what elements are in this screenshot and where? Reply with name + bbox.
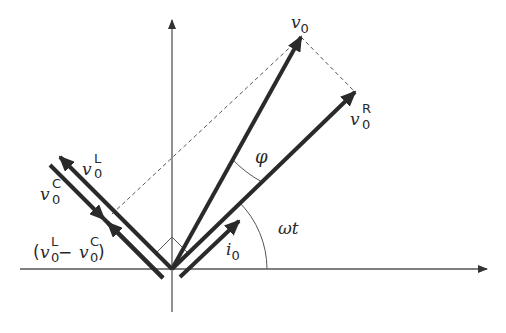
label-diff-open: ( — [33, 242, 40, 262]
label-phi: φ — [255, 146, 268, 167]
label-v0R-sub: 0 — [362, 117, 370, 132]
label-diff-close: ) — [98, 242, 105, 262]
label-i0: i0 — [226, 239, 240, 263]
label-v0R-base: v — [350, 109, 360, 129]
label-v0C-sub: 0 — [52, 192, 60, 207]
omega-t-arc — [239, 202, 267, 269]
label-v0: v0 — [291, 12, 309, 36]
phasor-diagram: v0 v R 0 v L 0 v C 0 ( v L 0 − v C 0 ) i… — [0, 0, 506, 333]
label-diff-minus: − — [58, 242, 72, 262]
label-diff-base1: v — [40, 242, 50, 262]
label-v0R-sup: R — [362, 101, 371, 116]
label-v0C-sup: C — [52, 176, 61, 191]
label-v0C-base: v — [40, 184, 50, 204]
label-v0L-sup: L — [94, 151, 102, 166]
label-v0L-base: v — [82, 159, 92, 179]
labels: v0 v R 0 v L 0 v C 0 ( v L 0 − v C 0 ) i… — [33, 12, 371, 265]
dashed-line-vl-to-v0 — [112, 37, 301, 214]
label-diff-base2: v — [79, 242, 89, 262]
label-omega-t: ωt — [278, 218, 299, 238]
dashed-line-v0-to-vr — [301, 37, 355, 92]
label-v0L-sub: 0 — [94, 166, 102, 181]
